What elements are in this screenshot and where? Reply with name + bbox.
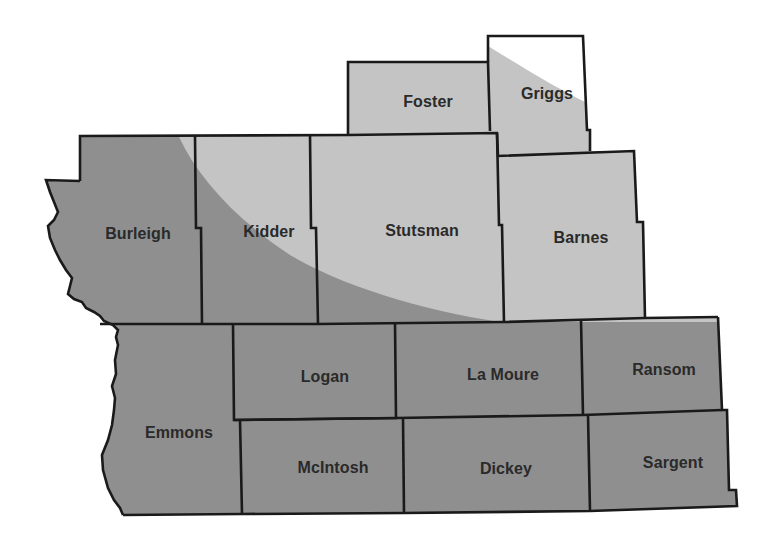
county-label-kidder: Kidder [243,223,294,241]
county-label-la-moure: La Moure [467,366,539,384]
county-label-griggs: Griggs [521,85,573,103]
county-label-logan: Logan [301,368,350,386]
county-label-barnes: Barnes [554,229,609,247]
county-label-stutsman: Stutsman [385,222,459,240]
county-label-foster: Foster [403,93,453,111]
county-label-ransom: Ransom [632,361,696,379]
county-label-mcintosh: McIntosh [297,459,368,477]
county-label-sargent: Sargent [643,454,703,472]
county-label-dickey: Dickey [480,460,532,478]
county-label-emmons: Emmons [145,424,213,442]
county-label-burleigh: Burleigh [105,225,171,243]
county-border-mcintosh-dickey [403,418,404,513]
